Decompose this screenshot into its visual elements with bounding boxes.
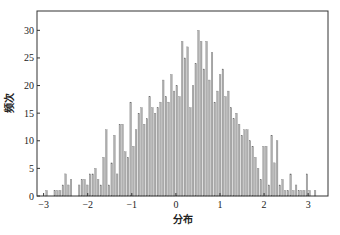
histogram-bar <box>195 63 197 196</box>
histogram-bar <box>103 157 105 196</box>
histogram-bar <box>198 30 200 196</box>
histogram-bar <box>230 108 232 196</box>
histogram-bar <box>192 86 194 196</box>
histogram-bar <box>119 124 121 196</box>
histogram-bar <box>203 69 205 196</box>
histogram-bar <box>141 108 143 196</box>
histogram-bar <box>244 130 246 196</box>
histogram-bar <box>246 130 248 196</box>
histogram-bar <box>227 91 229 196</box>
x-tick-label: −1 <box>126 199 137 210</box>
histogram-bar <box>276 141 278 196</box>
histogram-bar <box>236 113 238 196</box>
histogram-bar <box>222 69 224 196</box>
x-tick-label: 3 <box>306 199 311 210</box>
histogram-bar <box>279 185 281 196</box>
histogram-bar <box>295 185 297 196</box>
histogram-bar <box>84 179 86 196</box>
histogram-bar <box>265 146 267 196</box>
histogram-bar <box>200 41 202 196</box>
histogram-bar <box>105 130 107 196</box>
histogram-bar <box>284 190 286 196</box>
histogram-chart: −3−2−10123 051015202530 分布 频次 <box>0 0 340 235</box>
x-tick-label: −3 <box>38 199 49 210</box>
histogram-bar <box>59 190 61 196</box>
histogram-bar <box>57 190 59 196</box>
histogram-bar <box>290 174 292 196</box>
histogram-bar <box>233 119 235 196</box>
histogram-bar <box>116 174 118 196</box>
histogram-bar <box>97 179 99 196</box>
histogram-bar <box>68 185 70 196</box>
histogram-bar <box>176 86 178 196</box>
y-axis-ticks: 051015202530 <box>24 25 40 202</box>
x-tick-label: 2 <box>262 199 267 210</box>
y-tick-label: 15 <box>24 108 34 119</box>
histogram-bar <box>271 135 273 196</box>
histogram-bar <box>78 185 80 196</box>
histogram-bar <box>173 91 175 196</box>
histogram-bar <box>62 185 64 196</box>
histogram-bar <box>225 97 227 196</box>
histogram-bar <box>268 185 270 196</box>
y-tick-label: 0 <box>29 191 34 202</box>
histogram-bar <box>249 141 251 196</box>
histogram-bar <box>263 146 265 196</box>
y-tick-label: 20 <box>24 80 34 91</box>
histogram-bar <box>152 108 154 196</box>
histogram-bar <box>114 135 116 196</box>
histogram-bar <box>301 190 303 196</box>
histogram-bar <box>309 190 311 196</box>
histogram-bar <box>274 163 276 196</box>
histogram-bar <box>171 75 173 196</box>
histogram-bar <box>219 75 221 196</box>
histogram-bar <box>108 185 110 196</box>
histogram-bar <box>298 190 300 196</box>
histogram-bar <box>54 190 56 196</box>
histogram-bar <box>146 119 148 196</box>
histogram-bar <box>293 190 295 196</box>
histogram-bar <box>184 58 186 196</box>
y-tick-label: 10 <box>24 135 34 146</box>
x-axis-label: 分布 <box>173 213 193 225</box>
histogram-bar <box>181 41 183 196</box>
histogram-bar <box>214 102 216 196</box>
histogram-bar <box>130 102 132 196</box>
x-tick-label: 1 <box>217 199 222 210</box>
histogram-bar <box>211 52 213 196</box>
y-tick-label: 25 <box>24 52 34 63</box>
histogram-bar <box>282 179 284 196</box>
histogram-bar <box>209 80 211 196</box>
x-tick-label: 0 <box>173 199 178 210</box>
histogram-bar <box>122 124 124 196</box>
histogram-bar <box>157 108 159 196</box>
histogram-bar <box>111 163 113 196</box>
histogram-bar <box>154 113 156 196</box>
histogram-bar <box>306 174 308 196</box>
y-axis-label: 频次 <box>3 93 15 113</box>
histogram-bar <box>257 168 259 196</box>
histogram-bar <box>314 190 316 196</box>
y-tick-label: 30 <box>24 25 34 36</box>
histogram-bar <box>100 185 102 196</box>
histogram-bar <box>46 190 48 196</box>
y-tick-label: 5 <box>29 163 34 174</box>
histogram-bar <box>187 47 189 196</box>
histogram-bar <box>133 146 135 196</box>
histogram-bar <box>162 80 164 196</box>
histogram-bar <box>165 97 167 196</box>
histogram-bar <box>260 179 262 196</box>
histogram-bar <box>303 190 305 196</box>
histogram-bar <box>168 102 170 196</box>
histogram-bar <box>127 157 129 196</box>
histogram-bar <box>217 91 219 196</box>
histogram-bar <box>89 174 91 196</box>
histogram-bar <box>190 108 192 196</box>
histogram-bars <box>46 30 316 196</box>
histogram-bar <box>81 179 83 196</box>
histogram-bar <box>287 190 289 196</box>
histogram-bar <box>143 124 145 196</box>
histogram-bar <box>135 130 137 196</box>
histogram-bar <box>95 168 97 196</box>
histogram-bar <box>255 157 257 196</box>
